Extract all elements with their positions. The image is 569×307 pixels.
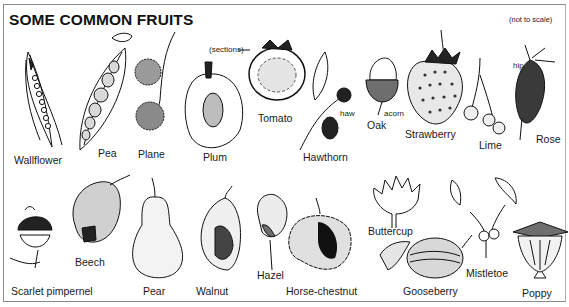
walnut-illustration <box>201 186 240 270</box>
poppy-illustration <box>513 222 568 278</box>
lime-illustration <box>464 58 505 134</box>
gooseberry-illustration <box>380 235 472 278</box>
label-poppy: Poppy <box>522 287 552 299</box>
label-oak: Oak <box>367 119 386 131</box>
label-beech: Beech <box>75 256 105 268</box>
label-strawberry: Strawberry <box>405 128 456 140</box>
oak-illustration <box>366 58 398 115</box>
horse-chestnut-illustration <box>289 198 351 269</box>
label-tomato: Tomato <box>258 112 292 124</box>
strawberry-illustration <box>408 30 463 124</box>
label-oak-acorn: acorn <box>384 109 404 118</box>
plane-illustration <box>135 32 175 130</box>
hazel-illustration <box>257 194 287 270</box>
label-scarlet-pimpernel: Scarlet pimpernel <box>11 285 93 297</box>
label-pear: Pear <box>143 285 165 297</box>
tomato-illustration <box>238 40 305 100</box>
label-mistletoe: Mistletoe <box>466 267 508 279</box>
label-horse-chestnut: Horse-chestnut <box>286 285 357 297</box>
rose-illustration <box>516 45 555 140</box>
label-wallflower: Wallflower <box>14 154 62 166</box>
label-walnut: Walnut <box>196 285 228 297</box>
scarlet-pimpernel-illustration <box>10 207 52 268</box>
label-plane: Plane <box>138 148 165 160</box>
wallflower-illustration <box>26 52 62 147</box>
label-plum: Plum <box>203 151 227 163</box>
pear-illustration <box>133 178 183 278</box>
label-pea: Pea <box>98 147 117 159</box>
label-hazel: Hazel <box>257 269 284 281</box>
label-rose: Rose <box>536 133 561 145</box>
beech-illustration <box>73 175 130 242</box>
plum-illustration <box>185 62 242 148</box>
label-hawthorn: Hawthorn <box>303 151 348 163</box>
label-hawthorn-haw: haw <box>340 109 355 118</box>
hawthorn-illustration <box>300 52 351 150</box>
label-tomato-sections: (sections) <box>209 45 244 54</box>
label-buttercup: Buttercup <box>368 225 413 237</box>
label-lime: Lime <box>479 139 502 151</box>
label-rose-hip: hip <box>513 61 524 70</box>
pea-illustration <box>80 33 132 150</box>
mistletoe-illustration <box>450 178 516 258</box>
buttercup-illustration <box>374 176 420 228</box>
label-gooseberry: Gooseberry <box>403 285 458 297</box>
